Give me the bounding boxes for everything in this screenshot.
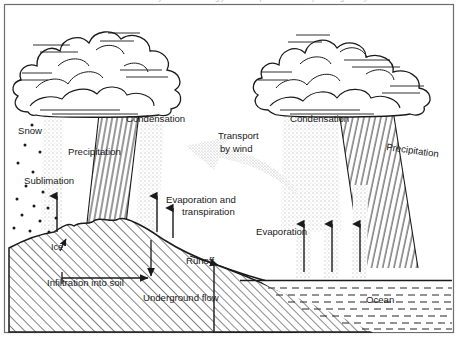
rain-shaft-left xyxy=(86,105,140,232)
label-evaporation: Evaporation xyxy=(256,226,307,237)
label-evapotranspiration-line1: Evaporation and xyxy=(166,194,236,205)
label-condensation-right: Condensation xyxy=(290,113,349,124)
figure-container: Introduction to Physical Geology — Chapt… xyxy=(0,0,458,337)
label-evapotranspiration-line2: transpiration xyxy=(182,206,235,217)
label-sublimation: Sublimation xyxy=(24,175,74,186)
label-transport-line1: Transport xyxy=(218,130,259,141)
snow-stipple-column xyxy=(41,105,64,230)
label-condensation-left: Condensation xyxy=(126,113,185,124)
label-transport-line2: by wind xyxy=(220,143,253,154)
water-cycle-diagram: Snow Precipitation Condensation Sublimat… xyxy=(0,0,458,337)
cloud-left xyxy=(13,32,181,117)
label-precipitation-left: Precipitation xyxy=(68,146,121,157)
label-underground-flow: Underground flow xyxy=(143,292,219,303)
label-runoff: Runoff xyxy=(186,255,214,266)
label-infiltration: Infiltration into soil xyxy=(47,277,124,288)
rain-shaft-right xyxy=(338,104,418,268)
cloud-right xyxy=(253,35,430,117)
label-snow: Snow xyxy=(18,125,42,136)
label-ocean: Ocean xyxy=(366,294,394,305)
label-ice: Ice xyxy=(51,242,63,252)
condensation-stipple-left xyxy=(136,108,165,236)
